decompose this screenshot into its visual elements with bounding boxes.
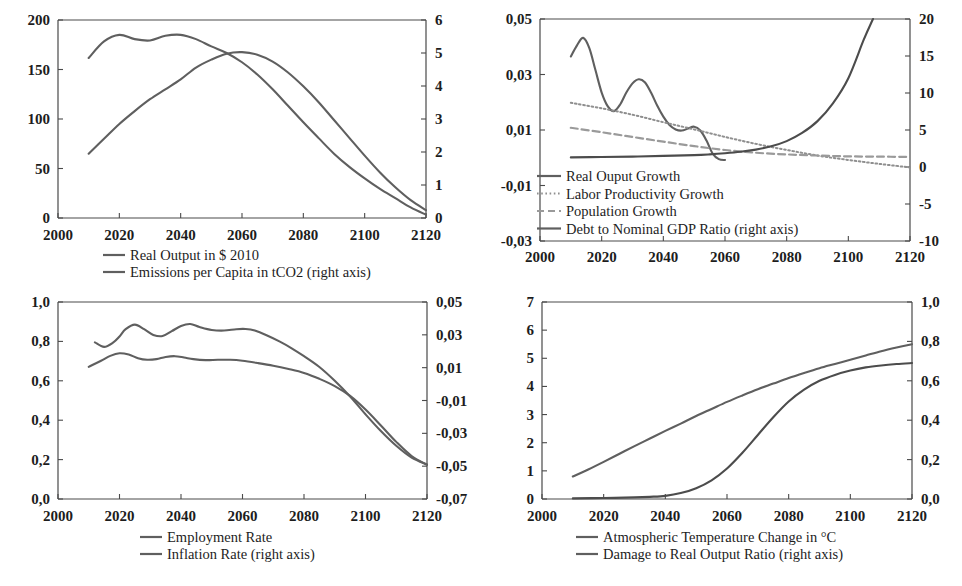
series-line: [573, 344, 912, 476]
x-tick-label: 2040: [648, 249, 678, 265]
y-tick-label: 0,6: [31, 373, 50, 389]
series-line: [571, 38, 725, 160]
y-tick-label: 1,0: [31, 294, 50, 310]
y-tick-label: 0: [527, 491, 535, 507]
legend-label: Damage to Real Output Ratio (right axis): [603, 546, 843, 563]
y-tick-label: 0,8: [31, 333, 50, 349]
legend-label: Labor Productivity Growth: [566, 186, 725, 202]
series-line: [89, 35, 426, 215]
y-tick-label: 6: [527, 322, 535, 338]
legend-label: Debt to Nominal GDP Ratio (right axis): [566, 221, 798, 238]
y-tick-label: 200: [28, 12, 51, 28]
series-group-2: [571, 19, 910, 167]
y2-tick-label: 2: [435, 144, 443, 160]
x-tick-label: 2060: [228, 508, 258, 524]
x-axis-ticks-2: 2000202020402060208021002120: [525, 236, 925, 265]
chart-svg-1: 050100150200 0123456 2000202020402060208…: [0, 0, 481, 286]
y-axis-right-ticks-3: -0,07-0,05-0,03-0,010,010,030,05: [422, 294, 468, 507]
series-line: [573, 363, 912, 498]
x-tick-label: 2020: [105, 508, 135, 524]
x-tick-label: 2020: [589, 508, 619, 524]
legend-3: Employment RateInflation Rate (right axi…: [140, 529, 315, 563]
y2-tick-label: 20: [919, 11, 934, 27]
y2-tick-label: 6: [435, 12, 443, 28]
y2-tick-label: 0,01: [436, 360, 462, 376]
y-axis-right-ticks-1: 0123456: [421, 12, 443, 226]
y2-tick-label: -0,03: [436, 425, 467, 441]
y2-tick-label: -0,07: [436, 491, 468, 507]
y2-tick-label: -10: [919, 233, 939, 249]
legend-label: Emissions per Capita in tCO2 (right axis…: [130, 264, 371, 281]
series-line: [89, 353, 427, 465]
figure-grid: 050100150200 0123456 2000202020402060208…: [0, 0, 962, 586]
y2-tick-label: 1,0: [921, 294, 940, 310]
y2-tick-label: 1: [435, 177, 443, 193]
y2-tick-label: 15: [919, 48, 934, 64]
y-tick-label: 4: [527, 378, 535, 394]
legend-label: Employment Rate: [167, 529, 272, 545]
chart-panel-employment-inflation: 0,00,20,40,60,81,0 -0,07-0,05-0,03-0,010…: [0, 286, 481, 586]
x-tick-label: 2020: [587, 249, 617, 265]
legend-label: Inflation Rate (right axis): [167, 546, 315, 563]
x-tick-label: 2060: [710, 249, 740, 265]
x-tick-label: 2000: [527, 508, 557, 524]
y2-tick-label: -0,01: [436, 393, 467, 409]
x-tick-label: 2080: [772, 249, 802, 265]
y-tick-label: -0,01: [501, 178, 532, 194]
y-tick-label: 150: [28, 62, 51, 78]
y-tick-label: 7: [527, 294, 535, 310]
chart-panel-real-output-emissions: 050100150200 0123456 2000202020402060208…: [0, 0, 481, 286]
y2-tick-label: 0: [919, 159, 927, 175]
y-tick-label: 3: [527, 407, 535, 423]
x-tick-label: 2040: [166, 508, 196, 524]
legend-label: Real Output in $ 2010: [130, 247, 259, 263]
x-tick-label: 2120: [411, 227, 441, 243]
y2-tick-label: -0,05: [436, 458, 467, 474]
series-line: [95, 324, 427, 464]
x-tick-label: 2100: [351, 508, 381, 524]
x-tick-label: 2100: [833, 249, 863, 265]
legend-label: Real Ouput Growth: [566, 168, 681, 184]
plot-frame-3: [58, 302, 427, 499]
y2-tick-label: 4: [435, 78, 443, 94]
y2-tick-label: 0,4: [921, 412, 940, 428]
y2-tick-label: 5: [435, 45, 443, 61]
legend-label: Atmospheric Temperature Change in °C: [603, 529, 836, 545]
y-tick-label: 0,03: [506, 67, 532, 83]
chart-svg-3: 0,00,20,40,60,81,0 -0,07-0,05-0,03-0,010…: [0, 286, 481, 586]
y-tick-label: -0,03: [501, 233, 532, 249]
x-tick-label: 2080: [289, 508, 319, 524]
y-tick-label: 5: [527, 350, 535, 366]
y-tick-label: 0,0: [31, 491, 50, 507]
x-tick-label: 2000: [43, 227, 73, 243]
chart-svg-4: 01234567 0,00,20,40,60,81,0 200020202040…: [481, 286, 962, 586]
y-tick-label: 0,01: [506, 122, 532, 138]
x-tick-label: 2100: [350, 227, 380, 243]
y-axis-left-ticks-4: 01234567: [527, 294, 548, 507]
y2-tick-label: 0,03: [436, 327, 462, 343]
y2-tick-label: 5: [919, 122, 927, 138]
x-tick-label: 2060: [712, 508, 742, 524]
y-tick-label: 0,4: [31, 412, 50, 428]
y-tick-label: 100: [28, 111, 51, 127]
y-tick-label: 0,2: [31, 452, 50, 468]
x-tick-label: 2040: [166, 227, 196, 243]
y2-tick-label: -5: [919, 196, 932, 212]
x-tick-label: 2120: [412, 508, 442, 524]
x-tick-label: 2080: [774, 508, 804, 524]
plot-frame-1: [58, 20, 426, 218]
x-tick-label: 2000: [43, 508, 73, 524]
y2-tick-label: 0,2: [921, 452, 940, 468]
y2-tick-label: 0,8: [921, 333, 940, 349]
y-axis-left-ticks-2: -0,03-0,010,010,030,05: [501, 11, 545, 249]
x-tick-label: 2120: [897, 508, 927, 524]
legend-label: Population Growth: [566, 203, 678, 219]
y-tick-label: 0: [43, 210, 51, 226]
y2-tick-label: 0,6: [921, 373, 940, 389]
y-tick-label: 0,05: [506, 11, 532, 27]
legend-1: Real Output in $ 2010Emissions per Capit…: [103, 247, 371, 281]
y2-tick-label: 3: [435, 111, 443, 127]
legend-4: Atmospheric Temperature Change in °CDama…: [576, 529, 843, 563]
legend-2: Real Ouput GrowthLabor Productivity Grow…: [537, 168, 798, 238]
y2-tick-label: 10: [919, 85, 934, 101]
